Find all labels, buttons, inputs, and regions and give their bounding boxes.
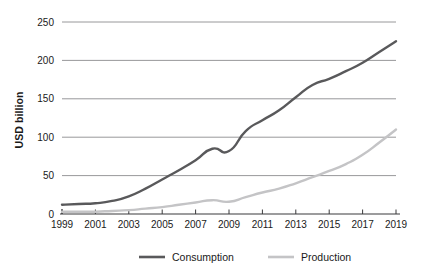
- x-axis-tick-label: 2005: [151, 219, 174, 230]
- x-axis-tick-label: 2001: [84, 219, 107, 230]
- gridlines: [62, 22, 396, 176]
- y-axis-tick-label: 150: [37, 93, 54, 104]
- y-axis-tick-label: 250: [37, 17, 54, 28]
- y-axis-tick-label: 200: [37, 55, 54, 66]
- y-axis-tick-labels: 050100150200250: [37, 17, 54, 220]
- plot-area: 050100150200250 199920012003200520072009…: [0, 0, 438, 273]
- chart-legend: ConsumptionProduction: [139, 251, 351, 263]
- line-chart: USD billion 050100150200250 199920012003…: [0, 0, 438, 273]
- x-axis-tick-label: 2019: [385, 219, 408, 230]
- series-line-production: [62, 130, 396, 212]
- y-axis-tick-label: 0: [48, 209, 54, 220]
- x-axis-tick-label: 2003: [118, 219, 141, 230]
- data-series: [62, 41, 396, 212]
- x-axis-tick-label: 2013: [285, 219, 308, 230]
- legend-label-consumption: Consumption: [172, 251, 234, 263]
- x-axis-tick-label: 2009: [218, 219, 241, 230]
- x-axis-tick-label: 2017: [351, 219, 374, 230]
- x-axis-tick-label: 2011: [252, 219, 274, 230]
- series-line-consumption: [62, 41, 396, 205]
- y-axis-tick-label: 100: [37, 132, 54, 143]
- x-axis-tick-label: 2007: [184, 219, 207, 230]
- x-axis-tick-label: 1999: [51, 219, 74, 230]
- legend-label-production: Production: [301, 251, 351, 263]
- y-axis-tick-label: 50: [43, 170, 55, 181]
- x-axis-tick-labels: 1999200120032005200720092011201320152017…: [51, 219, 408, 230]
- x-axis-tick-label: 2015: [318, 219, 341, 230]
